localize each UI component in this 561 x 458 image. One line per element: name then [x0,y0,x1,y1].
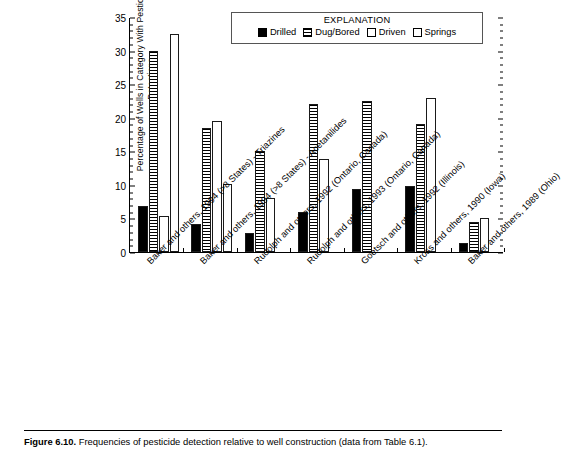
y-axis-tick-label: 20 [115,113,130,124]
white-square-icon [367,28,376,37]
x-axis-labels: Baker and others, 1994 (>8 States) - Tri… [0,253,515,418]
x-axis-group-separator [504,248,505,252]
legend-item-dug-bored: Dug/Bored [303,27,359,37]
white-square-icon [413,28,422,37]
bar-dug-bored [309,104,319,252]
horizontal-hatch-square-icon [303,28,312,37]
figure-caption: Figure 6.10. Frequencies of pesticide de… [24,436,502,448]
bar-drilled [459,243,469,252]
bar-springs [170,34,180,252]
bar-dug-bored [149,51,159,252]
bar-drilled [191,224,201,252]
legend-item-label: Springs [425,27,457,37]
y-axis-tick-label: 30 [115,46,130,57]
bar-drilled [245,233,255,252]
y-axis-tick-label: 10 [115,180,130,191]
y-axis-tick-label: 35 [115,13,130,24]
solid-black-square-icon [258,28,267,37]
y-axis-tick-label: 5 [120,214,130,225]
legend-items: DrilledDug/BoredDrivenSprings [232,27,482,37]
legend-item-drilled: Drilled [258,27,296,37]
legend-item-label: Dug/Bored [315,27,359,37]
legend-item-label: Drilled [270,27,296,37]
figure-caption-text: Frequencies of pesticide detection relat… [76,436,428,447]
legend-title: EXPLANATION [232,15,482,25]
bar-group [130,18,183,252]
legend-item-driven: Driven [367,27,406,37]
bar-dug-bored [362,101,372,252]
caption-divider [24,430,502,431]
legend-item-label: Driven [379,27,406,37]
bar-driven [426,98,436,252]
chart-legend: EXPLANATION DrilledDug/BoredDrivenSpring… [231,12,483,44]
bar-drilled [138,206,148,252]
figure-caption-label: Figure 6.10. [24,436,76,447]
y-axis-tick-label: 15 [115,147,130,158]
legend-item-springs: Springs [413,27,457,37]
y-axis-tick-label: 25 [115,80,130,91]
bar-dug-bored [202,128,212,252]
